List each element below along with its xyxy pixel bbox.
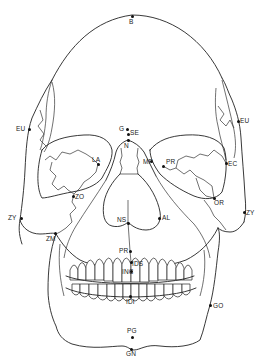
- left-temporal-outline: [19, 80, 52, 244]
- landmark-point-go: [209, 304, 212, 307]
- landmark-label-mf: MF: [143, 159, 153, 166]
- landmark-point-eu_l: [28, 128, 31, 131]
- landmark-label-g: G: [119, 126, 124, 133]
- cranial-vault-outline: [52, 15, 222, 80]
- landmark-label-zy_r: ZY: [246, 210, 255, 217]
- landmark-point-pg: [131, 336, 134, 339]
- landmark-point-pr_orb: [162, 165, 165, 168]
- left-orbit-outline: [38, 135, 112, 198]
- landmark-label-eu_l: EU: [16, 126, 25, 133]
- skull-diagram: [0, 0, 264, 362]
- landmark-point-g: [126, 128, 129, 131]
- landmark-point-zy_l: [20, 217, 23, 220]
- landmark-label-n: N: [124, 143, 129, 150]
- landmark-label-zy_l: ZY: [8, 215, 17, 222]
- landmark-point-al: [158, 217, 161, 220]
- right-temporal-outline: [222, 78, 246, 222]
- landmark-label-ids: IDS: [132, 261, 143, 268]
- landmark-label-zo: ZO: [75, 194, 84, 201]
- landmark-label-inc: INC: [122, 269, 134, 276]
- right-zygomatic-outline: [218, 222, 244, 232]
- landmark-label-zm: ZM: [46, 236, 56, 243]
- landmark-label-idi: IDI: [126, 299, 135, 306]
- left-zygomatic-outline: [20, 220, 56, 234]
- landmark-label-or: OR: [214, 200, 224, 207]
- landmark-label-eu_r: EU: [240, 118, 249, 125]
- landmark-label-go: GO: [213, 303, 223, 310]
- landmark-label-b: B: [129, 19, 133, 26]
- landmark-point-pr: [129, 250, 132, 253]
- landmark-label-ec: EC: [228, 161, 237, 168]
- nasal-aperture: [103, 174, 160, 230]
- landmark-label-pg: PG: [127, 328, 137, 335]
- landmark-label-al: AL: [162, 215, 170, 222]
- landmark-label-gn: GN: [126, 351, 136, 358]
- landmark-label-la: LA: [92, 157, 100, 164]
- landmark-label-pr: PR: [119, 248, 128, 255]
- landmark-label-se: SE: [130, 130, 139, 137]
- landmark-label-pr_orb: PR: [166, 159, 175, 166]
- landmark-label-ns: NS: [117, 217, 126, 224]
- landmark-point-ns: [127, 222, 130, 225]
